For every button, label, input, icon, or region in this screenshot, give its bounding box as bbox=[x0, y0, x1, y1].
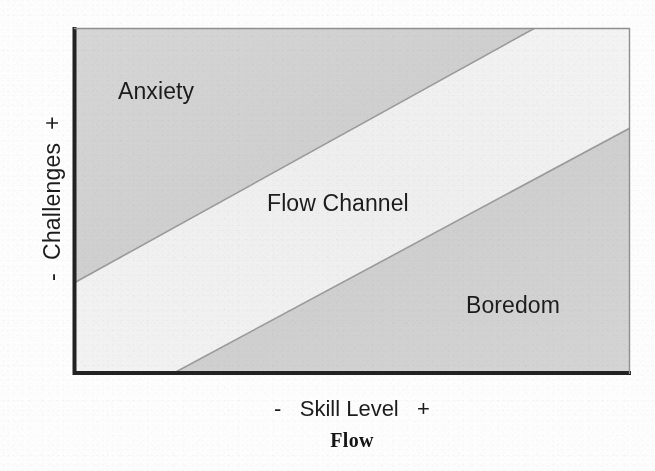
figure-caption: Flow bbox=[74, 429, 630, 452]
y-axis-title: - Challenges + bbox=[39, 79, 66, 319]
region-label-boredom: Boredom bbox=[466, 292, 560, 319]
x-axis-title: - Skill Level + bbox=[74, 396, 630, 422]
flow-diagram-figure: Anxiety Flow Channel Boredom - Challenge… bbox=[0, 0, 655, 471]
region-label-flow-channel: Flow Channel bbox=[267, 190, 409, 217]
region-label-anxiety: Anxiety bbox=[118, 78, 194, 105]
